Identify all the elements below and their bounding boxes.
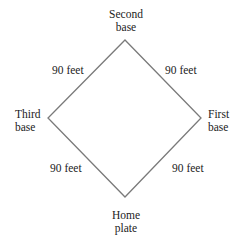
second-base-label: Second base [103,8,149,34]
baseball-diamond-diagram: Second base First base Third base Home p… [0,0,242,249]
edge-label-home-to-first: 90 feet [172,162,204,175]
first-base-label: First base [208,108,242,134]
edge-label-third-to-home: 90 feet [50,162,82,175]
home-plate-label: Home plate [103,209,149,235]
edge-label-second-to-first: 90 feet [165,64,197,77]
third-base-label: Third base [15,108,49,134]
edge-label-third-to-second: 90 feet [52,64,84,77]
